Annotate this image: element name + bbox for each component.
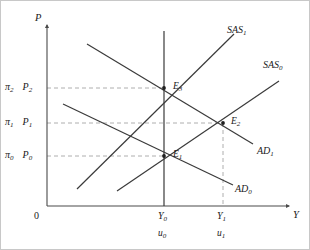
equilibrium-label-e1: E1 bbox=[173, 150, 182, 160]
x-tick-y0: Y0 bbox=[158, 211, 167, 221]
curve-label-ad1: AD1 bbox=[257, 146, 274, 156]
equilibrium-dot-e2 bbox=[221, 121, 225, 125]
equilibrium-label-e2: E2 bbox=[231, 117, 240, 127]
curve-label-ad0: AD0 bbox=[235, 184, 252, 194]
x-axis-label: Y bbox=[293, 210, 299, 221]
inflation-symbol-1: π1 bbox=[5, 116, 14, 127]
x-tick-u0: u0 bbox=[158, 229, 166, 239]
equilibrium-dot-e1 bbox=[162, 154, 166, 158]
axes-group bbox=[47, 25, 289, 206]
y-tick-p2: π2 P2 bbox=[5, 82, 32, 92]
diagram-canvas bbox=[1, 1, 310, 250]
origin-label: 0 bbox=[34, 211, 39, 221]
equilibrium-label-e3: E3 bbox=[173, 82, 182, 92]
x-tick-y1: Y1 bbox=[217, 211, 226, 221]
y-axis-label: P bbox=[35, 13, 41, 24]
sas0-curve bbox=[117, 81, 279, 191]
price-symbol-1: P1 bbox=[23, 116, 33, 127]
inflation-symbol-0: π0 bbox=[5, 149, 14, 160]
x-tick-u1: u1 bbox=[217, 229, 225, 239]
sas1-curve bbox=[77, 34, 234, 189]
price-symbol-2: P2 bbox=[23, 81, 33, 92]
curve-label-sas0: SAS0 bbox=[263, 60, 283, 70]
guide-lines bbox=[47, 88, 223, 206]
equilibrium-dot-e3 bbox=[162, 86, 166, 90]
y-tick-p1: π1 P1 bbox=[5, 117, 32, 127]
curve-label-sas1: SAS1 bbox=[227, 25, 247, 35]
inflation-symbol-2: π2 bbox=[5, 81, 14, 92]
price-symbol-0: P0 bbox=[23, 149, 33, 160]
as-ad-diagram: P Y 0 π2 P2 π1 P1 π0 P0 Y0 u0 Y1 u1 SAS1… bbox=[0, 0, 310, 250]
y-tick-p0: π0 P0 bbox=[5, 150, 32, 160]
ad1-curve bbox=[87, 44, 253, 144]
